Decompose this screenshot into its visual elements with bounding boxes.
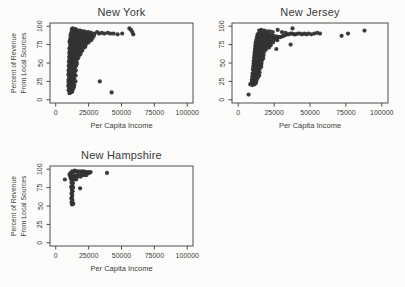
- x-tick-label: 0: [54, 252, 58, 259]
- y-tick-label: 75: [219, 41, 226, 49]
- x-tick-label: 100000: [176, 109, 199, 116]
- scatter-point: [120, 31, 124, 35]
- x-tick-label: 100000: [176, 252, 199, 259]
- x-tick-label: 25000: [264, 109, 284, 116]
- x-tick-label: 75000: [145, 252, 165, 259]
- scatter-panel-new-york: New York Percent of Revenue From Local S…: [0, 0, 202, 143]
- x-tick-label: 25000: [79, 109, 99, 116]
- y-tick-label: 50: [219, 59, 226, 67]
- y-tick-label: 25: [219, 77, 226, 85]
- scatter-point: [247, 93, 251, 97]
- scatter-point: [257, 71, 261, 75]
- y-tick-label: 75: [37, 184, 44, 192]
- scatter-point: [78, 186, 82, 190]
- scatter-point: [112, 31, 116, 35]
- scatter-point: [340, 34, 344, 38]
- scatter-points: [63, 169, 109, 207]
- scatter-point: [280, 30, 284, 34]
- scatter-points: [66, 26, 135, 95]
- x-tick-label: 0: [54, 109, 58, 116]
- scatter-point: [289, 43, 293, 47]
- scatter-point: [105, 171, 109, 175]
- scatter-point: [110, 90, 114, 94]
- x-tick-label: 50000: [112, 252, 132, 259]
- y-tick-label: 50: [37, 202, 44, 210]
- y-tick-label: 100: [219, 20, 226, 32]
- scatter-point: [318, 31, 322, 35]
- scatter-point: [284, 31, 288, 35]
- figure-canvas: New York Percent of Revenue From Local S…: [0, 0, 405, 287]
- x-tick-label: 25000: [79, 252, 99, 259]
- scatter-point: [362, 29, 366, 33]
- scatter-point: [271, 30, 275, 34]
- y-tick-label: 75: [37, 41, 44, 49]
- y-tick-label: 0: [37, 241, 44, 245]
- scatter-panel-new-hampshire: New Hampshire Percent of Revenue From Lo…: [0, 143, 202, 287]
- x-tick-label: 50000: [112, 109, 132, 116]
- scatter-point: [131, 32, 135, 36]
- y-tick-label: 25: [37, 77, 44, 85]
- scatter-point: [70, 27, 74, 31]
- scatter-point: [346, 31, 350, 35]
- scatter-point: [274, 47, 278, 51]
- y-tick-label: 0: [37, 98, 44, 102]
- scatter-points: [247, 26, 367, 96]
- scatter-point: [290, 26, 294, 30]
- scatter-point: [98, 79, 102, 83]
- scatter-point: [63, 177, 67, 181]
- scatter-point: [85, 173, 89, 177]
- y-tick-label: 25: [37, 220, 44, 228]
- x-axis-label-new-york: Per Capita Income: [50, 121, 193, 130]
- x-axis-label-new-hampshire: Per Capita Income: [50, 264, 193, 273]
- x-tick-label: 75000: [336, 109, 356, 116]
- x-tick-label: 50000: [300, 109, 320, 116]
- y-tick-label: 100: [37, 20, 44, 32]
- x-tick-label: 0: [236, 109, 240, 116]
- scatter-point: [71, 202, 75, 206]
- x-tick-label: 100000: [370, 109, 393, 116]
- y-tick-label: 50: [37, 59, 44, 67]
- scatter-point: [276, 28, 280, 32]
- y-tick-label: 0: [219, 98, 226, 102]
- x-axis-label-new-jersey: Per Capita Income: [232, 121, 388, 130]
- scatter-point: [89, 170, 93, 174]
- scatter-point: [116, 32, 120, 36]
- scatter-panel-new-jersey: New Jersey 02500050000750001000000255075…: [202, 0, 405, 143]
- x-tick-label: 75000: [145, 109, 165, 116]
- scatter-point: [73, 27, 77, 31]
- y-tick-label: 100: [37, 163, 44, 175]
